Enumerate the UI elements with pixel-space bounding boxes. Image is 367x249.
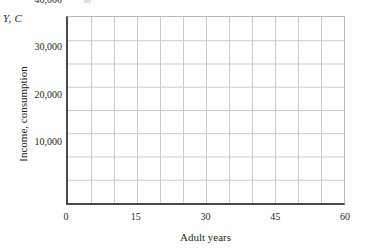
y-axis-tick-labels: 10,00020,00030,00040,000	[14, 0, 62, 189]
x-axis-tick-labels: 015304560	[66, 212, 345, 226]
y-tick-label: 20,000	[16, 90, 62, 100]
plot-area	[66, 16, 345, 205]
y-tick-label: 40,000	[16, 0, 62, 5]
gridlines	[68, 17, 344, 203]
clipped-title-artifact	[84, 0, 91, 3]
x-tick-label: 15	[116, 212, 156, 222]
y-tick-label: 30,000	[16, 42, 62, 52]
chart-figure: Y, C Income, consumption 10,00020,00030,…	[0, 0, 367, 249]
x-axis-title: Adult years	[66, 231, 345, 243]
x-tick-label: 60	[325, 212, 365, 222]
x-tick-label: 30	[186, 212, 226, 222]
y-tick-label: 10,000	[16, 137, 62, 147]
x-tick-label: 0	[46, 212, 86, 222]
x-tick-label: 45	[255, 212, 295, 222]
